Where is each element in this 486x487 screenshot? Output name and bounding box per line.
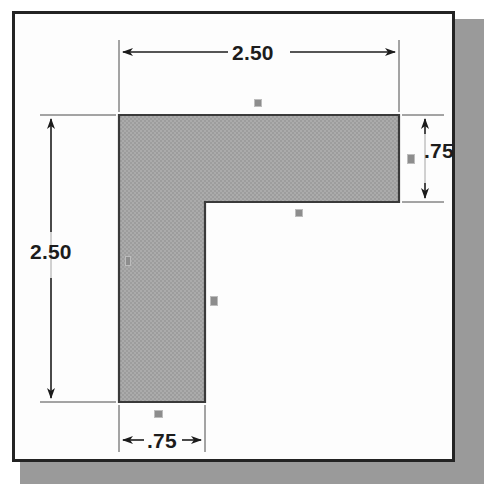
technical-drawing-scene: 2.50 .75 2.50 .75 [0, 0, 486, 487]
dimension-label-left: 2.50 [30, 241, 72, 262]
drawing-canvas [0, 0, 486, 487]
artifact-inner-horizontal [295, 209, 303, 217]
dimension-label-bottom: .75 [147, 430, 177, 451]
artifact-inner-vertical [210, 296, 218, 306]
artifact-bottom-edge [154, 410, 163, 418]
dimension-label-right: .75 [424, 140, 454, 161]
artifact-top-edge [254, 99, 262, 107]
artifact-left-edge [125, 256, 131, 266]
part-l-bracket [119, 115, 399, 402]
extension-lines [40, 40, 444, 452]
part-outline [119, 115, 399, 402]
dimension-label-top: 2.50 [232, 42, 274, 63]
artifact-right-dimension [407, 154, 415, 164]
